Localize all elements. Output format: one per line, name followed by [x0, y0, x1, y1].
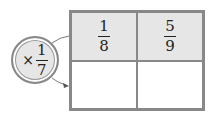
numerator: 5 — [165, 19, 175, 34]
cell-top-left: 1 8 — [72, 13, 136, 60]
operator-denominator: 7 — [37, 63, 47, 78]
fraction-table: 1 8 5 9 — [69, 10, 205, 111]
cell-top-right: 5 9 — [138, 13, 202, 60]
multiplier-circle: × 1 7 — [11, 36, 59, 84]
operator-numerator: 1 — [37, 43, 47, 58]
cell-bottom-right[interactable] — [138, 62, 202, 109]
denominator: 9 — [165, 39, 175, 54]
numerator: 1 — [99, 19, 109, 34]
denominator: 8 — [99, 39, 109, 54]
times-symbol: × — [22, 52, 34, 68]
cell-bottom-left[interactable] — [72, 62, 136, 109]
